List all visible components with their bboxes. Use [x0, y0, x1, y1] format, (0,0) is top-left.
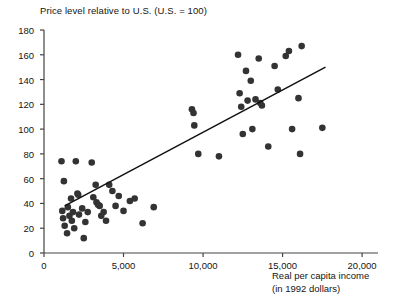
data-point	[92, 182, 99, 189]
data-point	[58, 158, 65, 165]
data-point	[88, 159, 95, 166]
data-points	[58, 43, 325, 242]
data-point	[244, 97, 251, 104]
data-point	[59, 208, 66, 215]
data-point	[61, 222, 68, 229]
data-point	[249, 126, 256, 133]
y-axis-tick-label: 60	[8, 173, 34, 184]
data-point	[216, 153, 223, 160]
data-point	[69, 217, 76, 224]
y-axis-tick-label: 180	[8, 25, 34, 36]
x-axis-tick-label: 5,000	[112, 260, 136, 271]
data-point	[297, 151, 304, 158]
data-point	[298, 43, 305, 50]
axes	[44, 30, 378, 253]
data-point	[120, 208, 127, 215]
data-point	[79, 205, 86, 212]
data-point	[82, 219, 89, 226]
data-point	[103, 217, 110, 224]
data-point	[96, 203, 103, 210]
x-axis-label-line1: Real per capita income	[272, 270, 369, 283]
data-point	[150, 204, 157, 211]
y-axis-tick-label: 0	[8, 248, 34, 259]
data-point	[76, 211, 83, 218]
data-point	[60, 215, 67, 222]
data-point	[289, 126, 296, 133]
data-point	[259, 102, 266, 109]
data-point	[71, 225, 78, 232]
data-point	[131, 195, 138, 202]
regression-line	[65, 67, 326, 206]
data-point	[240, 131, 247, 138]
data-point	[100, 209, 107, 216]
y-axis-tick-label: 160	[8, 49, 34, 60]
x-axis-label-line2: (in 1992 dollars)	[272, 283, 369, 296]
scatter-chart: Price level relative to U.S. (U.S. = 100…	[0, 0, 395, 306]
x-axis-tick-label: 0	[41, 260, 46, 271]
x-axis-tick-label: 10,000	[189, 260, 218, 271]
data-point	[255, 55, 262, 62]
y-axis-tick-label: 100	[8, 124, 34, 135]
data-point	[235, 51, 242, 58]
data-point	[112, 203, 119, 210]
trend-line	[65, 67, 326, 206]
data-point	[295, 95, 302, 102]
data-point	[115, 193, 122, 200]
data-point	[195, 151, 202, 158]
x-axis-label: Real per capita income (in 1992 dollars)	[272, 270, 369, 295]
data-point	[64, 230, 71, 237]
data-point	[190, 110, 197, 117]
data-point	[265, 143, 272, 150]
data-point	[84, 209, 91, 216]
data-point	[238, 104, 245, 111]
x-axis-ticks	[44, 253, 362, 257]
chart-title: Price level relative to U.S. (U.S. = 100…	[40, 5, 207, 16]
data-point	[236, 90, 243, 97]
data-point	[286, 48, 293, 55]
data-point	[319, 125, 326, 132]
y-axis-tick-label: 40	[8, 198, 34, 209]
data-point	[271, 63, 278, 70]
data-point	[139, 220, 146, 227]
data-point	[191, 122, 198, 129]
data-point	[243, 68, 250, 75]
data-point	[109, 188, 116, 195]
data-point	[70, 209, 77, 216]
data-point	[73, 158, 80, 165]
data-point	[247, 77, 254, 84]
data-point	[61, 178, 68, 185]
y-axis-tick-label: 140	[8, 74, 34, 85]
data-point	[80, 235, 87, 242]
y-axis-tick-label: 20	[8, 223, 34, 234]
y-axis-tick-label: 80	[8, 148, 34, 159]
y-axis-tick-label: 120	[8, 99, 34, 110]
